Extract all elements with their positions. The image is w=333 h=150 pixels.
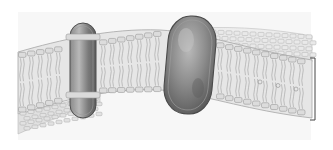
phospholipid-head xyxy=(55,98,63,103)
surface-head xyxy=(72,117,78,121)
phospholipid-head xyxy=(217,43,225,48)
surface-head xyxy=(242,32,248,36)
phospholipid-head xyxy=(262,103,270,108)
phospholipid-head xyxy=(19,107,27,112)
surface-head xyxy=(270,39,276,43)
phospholipid-head xyxy=(244,48,252,53)
surface-head xyxy=(52,105,58,109)
surface-head xyxy=(48,112,54,116)
surface-head xyxy=(218,30,224,34)
surface-head xyxy=(28,120,34,124)
surface-head xyxy=(52,115,58,119)
surface-head xyxy=(302,40,308,44)
surface-head xyxy=(32,125,38,129)
phospholipid-head xyxy=(154,31,162,36)
phospholipid-head xyxy=(19,52,27,57)
surface-head xyxy=(286,40,292,44)
phospholipid-head xyxy=(100,40,108,45)
surface-head xyxy=(266,45,272,49)
phospholipid-head xyxy=(235,46,243,51)
surface-head xyxy=(60,104,66,108)
surface-head xyxy=(278,39,284,43)
phospholipid-head xyxy=(289,108,297,113)
surface-head xyxy=(28,110,34,114)
surface-head xyxy=(258,32,264,36)
membrane-diagram xyxy=(0,0,333,150)
phospholipid-head xyxy=(253,50,261,55)
phospholipid-head xyxy=(262,52,270,57)
surface-head xyxy=(40,113,46,117)
phospholipid-head xyxy=(100,88,108,93)
phospholipid-head xyxy=(145,33,153,38)
surface-head xyxy=(258,44,264,48)
surface-head xyxy=(310,41,316,45)
phospholipid-head xyxy=(253,101,261,106)
surface-head xyxy=(44,107,50,111)
membrane-illustration xyxy=(0,0,333,150)
phospholipid-head xyxy=(118,37,126,42)
phospholipid-head xyxy=(127,36,135,41)
surface-head xyxy=(306,47,312,51)
phospholipid-head xyxy=(154,87,162,92)
phospholipid-head xyxy=(271,54,279,59)
phospholipid-head xyxy=(136,34,144,39)
surface-head xyxy=(274,33,280,37)
surface-head xyxy=(226,31,232,35)
phospholipid-head xyxy=(280,55,288,60)
phospholipid-head xyxy=(118,87,126,92)
phospholipid-head xyxy=(55,47,63,52)
surface-head xyxy=(298,34,304,38)
phospholipid-head xyxy=(145,87,153,92)
phospholipid-head xyxy=(217,94,225,99)
surface-head xyxy=(32,115,38,119)
surface-head xyxy=(24,117,30,121)
phospholipid-head xyxy=(271,105,279,110)
surface-head xyxy=(230,37,236,41)
surface-head xyxy=(294,52,300,56)
surface-head xyxy=(222,36,228,40)
surface-head xyxy=(274,45,280,49)
phospholipid-head xyxy=(46,48,54,53)
phospholipid-head xyxy=(37,103,45,108)
surface-head xyxy=(246,38,252,42)
surface-head xyxy=(44,117,50,121)
phospholipid-head xyxy=(298,110,306,115)
surface-head xyxy=(24,127,30,131)
phospholipid-head xyxy=(244,99,252,104)
phospholipid-head xyxy=(37,50,45,55)
phospholipid-head xyxy=(28,51,36,56)
phospholipid-head xyxy=(109,38,117,43)
surface-head xyxy=(282,46,288,50)
surface-head xyxy=(56,110,62,114)
phospholipid-head xyxy=(109,88,117,93)
surface-head xyxy=(64,109,70,113)
surface-head xyxy=(36,118,42,122)
surface-head xyxy=(254,38,260,42)
surface-head xyxy=(36,108,42,112)
phospholipid-head xyxy=(28,105,36,110)
phospholipid-head xyxy=(127,87,135,92)
surface-head xyxy=(20,122,26,126)
surface-head xyxy=(290,34,296,38)
surface-head xyxy=(234,31,240,35)
surface-head xyxy=(266,33,272,37)
phospholipid-head xyxy=(136,87,144,92)
surface-head xyxy=(96,102,102,106)
surface-head xyxy=(262,38,268,42)
surface-head xyxy=(238,37,244,41)
phospholipid-head xyxy=(226,96,234,101)
surface-head xyxy=(302,52,308,56)
phospholipid-head xyxy=(226,45,234,50)
surface-head xyxy=(282,34,288,38)
phospholipid-head xyxy=(280,106,288,111)
surface-head xyxy=(310,53,316,57)
small-transmembrane-protein xyxy=(66,23,100,118)
phospholipid-head xyxy=(289,57,297,62)
phospholipid-head xyxy=(235,97,243,102)
surface-head xyxy=(96,112,102,116)
surface-head xyxy=(306,35,312,39)
phospholipid-head xyxy=(298,59,306,64)
surface-head xyxy=(56,120,62,124)
surface-head xyxy=(290,46,296,50)
surface-head xyxy=(64,119,70,123)
